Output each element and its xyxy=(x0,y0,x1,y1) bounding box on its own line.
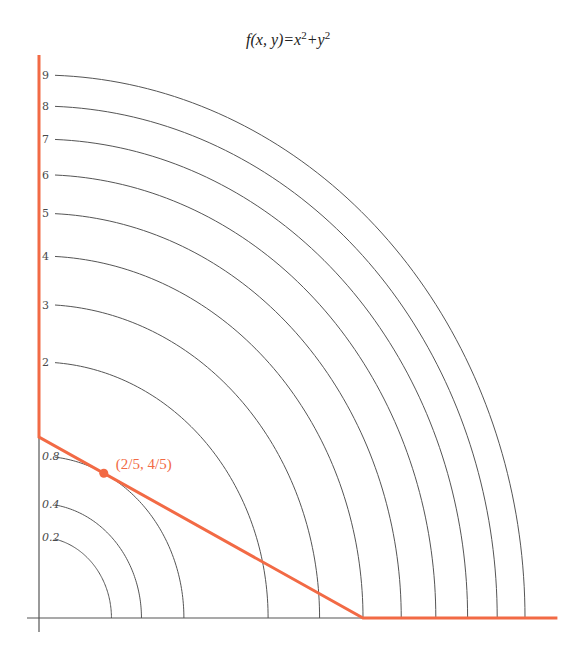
contour-label: 4 xyxy=(42,250,49,263)
contour-labels: 0.20.40.823456789 xyxy=(42,69,60,544)
contour-line xyxy=(55,106,497,618)
constraint-boundary xyxy=(39,55,557,618)
contour-label: 5 xyxy=(42,207,49,220)
contour-label: 9 xyxy=(42,69,49,82)
contour-label: 7 xyxy=(42,133,49,146)
contour-line xyxy=(55,214,401,618)
title-eq: =x xyxy=(283,31,301,48)
optimum-point xyxy=(99,469,108,478)
contour-label: 6 xyxy=(42,169,49,182)
contour-label: 2 xyxy=(42,356,49,369)
contour-label: 8 xyxy=(42,100,49,113)
title-args: (x, y) xyxy=(250,31,283,49)
contour-lines xyxy=(55,75,525,618)
contour-label: 0.2 xyxy=(42,531,60,544)
title-plus: +y xyxy=(307,31,326,49)
contour-line xyxy=(55,539,111,618)
contour-diagram: 0.20.40.823456789 (2/5, 4/5) f(x, y)=x2+… xyxy=(0,0,572,663)
contour-label: 0.8 xyxy=(42,450,60,463)
optimum-label: (2/5, 4/5) xyxy=(116,456,172,473)
function-title: f(x, y)=x2+y2 xyxy=(246,29,330,49)
contour-line xyxy=(55,75,525,618)
contour-line xyxy=(55,363,268,618)
contour-line xyxy=(55,256,363,618)
contour-label: 0.4 xyxy=(42,498,60,511)
contour-line xyxy=(55,139,468,618)
contour-label: 3 xyxy=(42,299,49,312)
title-sup2: 2 xyxy=(325,29,331,41)
contour-line xyxy=(55,505,141,618)
